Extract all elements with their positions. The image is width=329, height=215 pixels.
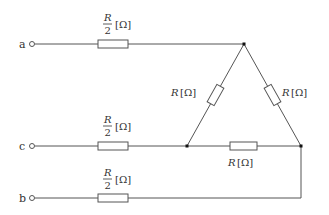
terminal-b-icon (30, 196, 35, 201)
symbol: R (281, 87, 290, 98)
delta-left-wire-bottom (187, 104, 211, 146)
delta-right-wire-top (244, 44, 268, 86)
resistor-delta-left (207, 84, 224, 105)
terminal-b-label: b (19, 192, 26, 205)
resistor-delta-bottom (230, 142, 257, 150)
circuit-diagram: a c b R 2 [Ω] R 2 [Ω] R 2 [Ω] R [Ω] R [Ω… (0, 0, 329, 215)
node-bottom-right-icon (300, 145, 303, 148)
symbol: R (170, 87, 179, 98)
unit: [Ω] (115, 174, 131, 185)
terminal-c-label: c (19, 140, 25, 153)
fraction-denominator: 2 (105, 127, 111, 138)
resistor-c (98, 142, 128, 150)
fraction-numerator: R (103, 12, 112, 23)
label-resistor-a: R 2 [Ω] (103, 12, 131, 36)
resistor-b (98, 194, 128, 202)
symbol: R (227, 157, 236, 168)
unit: [Ω] (291, 87, 307, 98)
label-resistor-b: R 2 [Ω] (103, 167, 131, 191)
label-resistor-c: R 2 [Ω] (103, 114, 131, 138)
terminal-c-icon (30, 144, 35, 149)
delta-left-wire-top (220, 44, 244, 86)
node-top-icon (243, 43, 246, 46)
label-delta-right: R [Ω] (281, 87, 307, 98)
unit: [Ω] (180, 87, 196, 98)
label-delta-left: R [Ω] (170, 87, 196, 98)
fraction-numerator: R (103, 167, 112, 178)
unit: [Ω] (237, 157, 253, 168)
terminal-a-icon (30, 42, 35, 47)
label-delta-bottom: R [Ω] (227, 157, 253, 168)
fraction-denominator: 2 (105, 25, 111, 36)
fraction-numerator: R (103, 114, 112, 125)
unit: [Ω] (115, 121, 131, 132)
resistor-a (98, 40, 128, 48)
fraction-denominator: 2 (105, 180, 111, 191)
node-bottom-left-icon (186, 145, 189, 148)
terminal-a-label: a (19, 38, 26, 51)
resistor-delta-right (264, 84, 281, 105)
unit: [Ω] (115, 19, 131, 30)
delta-right-wire-bottom (277, 104, 301, 146)
